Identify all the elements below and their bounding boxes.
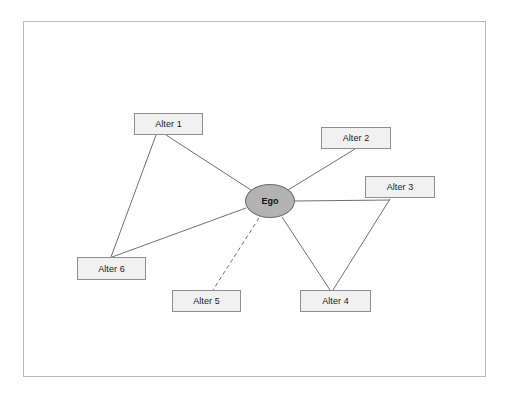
node-alter-6-label: Alter 6 [98, 264, 125, 274]
node-ego[interactable]: Ego [245, 184, 295, 218]
node-alter-4[interactable]: Alter 4 [300, 290, 371, 312]
node-alter-5[interactable]: Alter 5 [172, 290, 241, 312]
node-alter-3-label: Alter 3 [387, 182, 414, 192]
node-alter-3[interactable]: Alter 3 [365, 176, 435, 198]
node-alter-1[interactable]: Alter 1 [134, 113, 203, 135]
node-alter-5-label: Alter 5 [193, 296, 220, 306]
node-alter-2[interactable]: Alter 2 [321, 127, 391, 149]
node-alter-1-label: Alter 1 [155, 119, 182, 129]
node-ego-label: Ego [262, 196, 279, 206]
node-alter-4-label: Alter 4 [322, 296, 349, 306]
node-alter-6[interactable]: Alter 6 [77, 257, 146, 280]
node-alter-2-label: Alter 2 [343, 133, 370, 143]
diagram-canvas: Alter 1 Alter 2 Alter 3 Alter 4 Alter 5 … [0, 0, 511, 399]
